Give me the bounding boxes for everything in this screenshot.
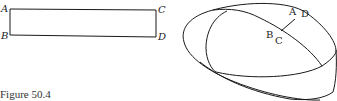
label-c-strip: C <box>275 35 283 46</box>
label-c-rect: C <box>158 4 166 15</box>
mobius-strip: A D B C <box>183 3 336 100</box>
label-d-strip: D <box>301 8 309 19</box>
figure-canvas: A B C D A D B C <box>0 0 337 101</box>
label-a-rect: A <box>0 3 8 14</box>
figure-caption: Figure 50.4 <box>0 88 51 100</box>
label-b-strip: B <box>266 29 273 40</box>
label-a-strip: A <box>288 6 297 17</box>
label-d-rect: D <box>157 31 166 42</box>
flat-strip-rectangle: A B C D <box>0 3 166 42</box>
label-b-rect: B <box>0 30 8 41</box>
